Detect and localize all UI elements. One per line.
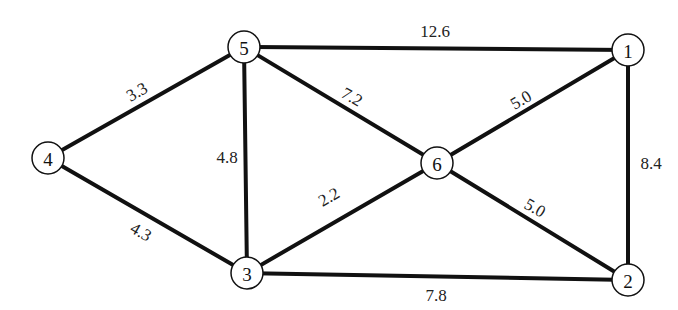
edge-5-6 — [244, 47, 437, 163]
edge-6-1 — [437, 50, 628, 163]
node-3: 3 — [231, 257, 263, 289]
node-label: 6 — [432, 154, 442, 175]
edge-4-5 — [48, 47, 244, 158]
edge-weights-layer: 12.63.34.34.87.22.25.05.08.47.8 — [123, 22, 662, 305]
node-2: 2 — [612, 264, 644, 296]
edge-5-3 — [244, 47, 247, 273]
edge-weight-5-3: 4.8 — [216, 148, 237, 167]
node-label: 1 — [623, 41, 633, 62]
graph-diagram: 12.63.34.34.87.22.25.05.08.47.8 123456 — [0, 0, 678, 310]
node-label: 4 — [43, 149, 53, 170]
edge-weight-1-2: 8.4 — [640, 154, 662, 173]
node-4: 4 — [32, 142, 64, 174]
edge-weight-5-1: 12.6 — [420, 22, 450, 41]
node-label: 2 — [623, 271, 633, 292]
node-label: 5 — [239, 38, 249, 59]
node-label: 3 — [242, 264, 252, 285]
nodes-layer: 123456 — [32, 31, 644, 296]
edge-4-3 — [48, 158, 247, 273]
node-1: 1 — [612, 34, 644, 66]
edge-weight-4-3: 4.3 — [127, 218, 155, 245]
node-5: 5 — [228, 31, 260, 63]
edge-3-2 — [247, 273, 628, 280]
node-6: 6 — [421, 147, 453, 179]
edge-5-1 — [244, 47, 628, 50]
edge-weight-3-2: 7.8 — [425, 286, 446, 305]
edge-weight-3-6: 2.2 — [315, 183, 343, 210]
edge-3-6 — [247, 163, 437, 273]
edge-6-2 — [437, 163, 628, 280]
